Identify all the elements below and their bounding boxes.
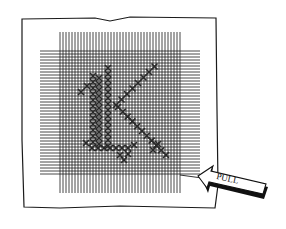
cross-stitch-drawing: PULL	[0, 0, 286, 229]
illustration: PULL	[0, 0, 286, 229]
vertical-threads	[60, 32, 180, 193]
